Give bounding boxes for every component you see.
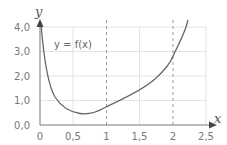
- svg-text:3,0: 3,0: [14, 46, 30, 57]
- svg-text:1,0: 1,0: [14, 95, 30, 106]
- x-axis-label: x: [214, 111, 222, 126]
- chart: y x y = f(x) 4,0 3,0 2,0 1,0 0,0 0 0,5 1…: [0, 0, 227, 145]
- y-axis-arrow-icon: [37, 19, 44, 27]
- y-ticks: 4,0 3,0 2,0 1,0 0,0: [14, 22, 30, 131]
- svg-text:2,0: 2,0: [14, 71, 30, 82]
- svg-text:1: 1: [103, 131, 109, 142]
- y-axis-label: y: [34, 4, 43, 19]
- svg-text:2: 2: [170, 131, 176, 142]
- function-label: y = f(x): [54, 39, 92, 50]
- svg-text:4,0: 4,0: [14, 22, 30, 33]
- svg-text:0,5: 0,5: [65, 131, 81, 142]
- svg-text:2,5: 2,5: [198, 131, 214, 142]
- svg-text:0,0: 0,0: [14, 120, 30, 131]
- x-ticks: 0 0,5 1 1,5 2 2,5: [37, 131, 214, 142]
- svg-text:1,5: 1,5: [132, 131, 148, 142]
- svg-text:0: 0: [37, 131, 43, 142]
- curve-f: [41, 20, 188, 114]
